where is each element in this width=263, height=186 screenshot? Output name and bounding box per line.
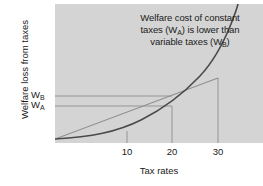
y-tick-wa-sub: A [40,104,45,111]
y-tick-wa-base: W [31,99,40,110]
annotation-line-2: taxes (WA) is lower than [115,24,263,37]
x-tick-label-20: 20 [162,146,182,157]
annotation-line-2-a: taxes (W [141,24,178,35]
annotation-line-1: Welfare cost of constant [115,12,263,24]
welfare-loss-chart-figure: Welfare cost of constant taxes (WA) is l… [0,0,263,186]
annotation-line-2-sub: A [177,29,182,36]
x-axis-title: Tax rates [55,165,263,176]
annotation-line-3: variable taxes (WB) [115,36,263,49]
annotation-line-3-b: ) [227,36,230,47]
chart-annotation: Welfare cost of constant taxes (WA) is l… [115,12,263,49]
annotation-line-2-b: ) is lower than [182,24,240,35]
y-axis-title: Welfare loss from taxes [19,5,30,135]
y-tick-label-wa: WA [31,99,263,110]
x-tick-label-30: 30 [208,146,228,157]
annotation-line-3-sub: B [222,41,227,48]
plot-area: Welfare cost of constant taxes (WA) is l… [55,4,263,143]
x-tick-label-10: 10 [117,146,137,157]
annotation-line-3-a: variable taxes (W [150,36,222,47]
